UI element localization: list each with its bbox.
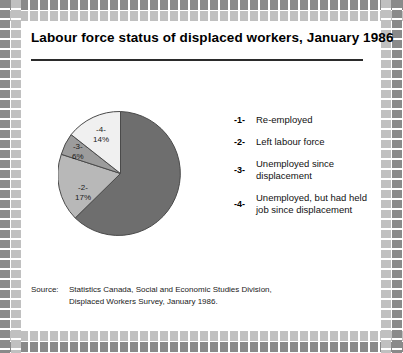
source-label: Source: bbox=[31, 284, 69, 296]
legend-marker-3: -3- bbox=[234, 165, 256, 175]
decorative-border-left bbox=[0, 0, 22, 353]
border-square-row bbox=[392, 0, 402, 353]
legend-label-2: Left labour force bbox=[256, 136, 325, 148]
chart-title: Labour force status of displaced workers… bbox=[31, 30, 394, 45]
legend-item-1[interactable]: -1- Re-employed bbox=[234, 114, 379, 126]
pie-slice-marker-1: -1- bbox=[166, 236, 182, 246]
pie-slice-marker-4: -4- bbox=[93, 125, 109, 135]
legend-marker-2: -2- bbox=[234, 137, 256, 147]
legend-label-1: Re-employed bbox=[256, 114, 313, 126]
title-divider bbox=[31, 59, 363, 61]
legend: -1- Re-employed -2- Left labour force -3… bbox=[234, 114, 379, 226]
source-note: Source:Statistics Canada, Social and Eco… bbox=[31, 284, 371, 308]
legend-marker-4: -4- bbox=[234, 199, 256, 209]
source-line-1: Statistics Canada, Social and Economic S… bbox=[69, 285, 272, 294]
border-square-row bbox=[11, 0, 21, 353]
pie-svg bbox=[58, 111, 183, 236]
legend-marker-1: -1- bbox=[234, 115, 256, 125]
decorative-border-top bbox=[0, 0, 403, 22]
legend-label-3: Unemployed since displacement bbox=[256, 158, 379, 182]
border-square-row bbox=[0, 0, 403, 10]
pie-slice-label-2: -2- 17% bbox=[75, 183, 91, 203]
border-square-row bbox=[0, 11, 403, 21]
decorative-border-bottom bbox=[0, 331, 403, 353]
border-square-row bbox=[0, 331, 403, 341]
pie-slice-pct-4: 14% bbox=[93, 135, 109, 145]
figure-container: Labour force status of displaced workers… bbox=[0, 0, 403, 353]
legend-item-4[interactable]: -4- Unemployed, but had held job since d… bbox=[234, 192, 379, 216]
legend-label-4: Unemployed, but had held job since displ… bbox=[256, 192, 379, 216]
border-square-row bbox=[0, 0, 10, 353]
pie-slice-pct-2: 17% bbox=[75, 193, 91, 203]
decorative-border-right bbox=[381, 0, 403, 353]
pie-chart: -1- 63% -2- 17% -3- 6% -4- 14% bbox=[58, 111, 183, 236]
pie-slice-label-1: -1- 63% bbox=[166, 236, 182, 256]
pie-slice-pct-3: 6% bbox=[72, 152, 84, 162]
pie-slice-label-3: -3- 6% bbox=[72, 142, 84, 162]
pie-slice-marker-3: -3- bbox=[72, 142, 84, 152]
pie-slice-pct-1: 63% bbox=[166, 246, 182, 256]
pie-slice-marker-2: -2- bbox=[75, 183, 91, 193]
pie-slice-label-4: -4- 14% bbox=[93, 125, 109, 145]
legend-item-2[interactable]: -2- Left labour force bbox=[234, 136, 379, 148]
legend-item-3[interactable]: -3- Unemployed since displacement bbox=[234, 158, 379, 182]
border-square-row bbox=[0, 342, 403, 352]
source-line-2: Displaced Workers Survey, January 1986. bbox=[69, 296, 371, 308]
content-panel: Labour force status of displaced workers… bbox=[22, 22, 381, 331]
border-square-row bbox=[381, 0, 391, 353]
